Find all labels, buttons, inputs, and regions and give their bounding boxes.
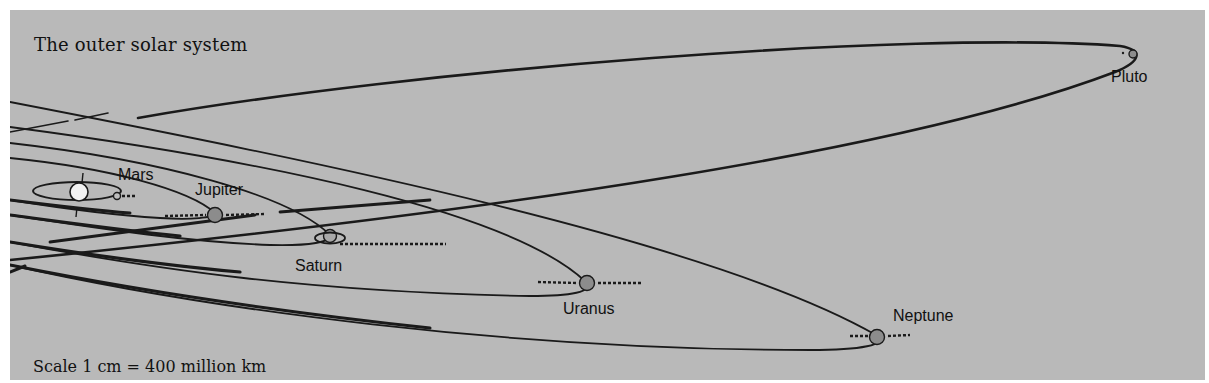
label-saturn: Saturn bbox=[295, 257, 342, 275]
uranus-icon bbox=[580, 276, 595, 291]
scale-label: Scale 1 cm = 400 million km bbox=[33, 357, 266, 376]
mars-icon bbox=[114, 193, 121, 200]
label-neptune: Neptune bbox=[893, 307, 954, 325]
saturn-icon bbox=[315, 230, 345, 244]
diagram-panel: The outer solar system Scale 1 cm = 400 … bbox=[10, 10, 1205, 380]
orbit-diagram bbox=[10, 10, 1205, 380]
label-pluto: Pluto bbox=[1111, 68, 1147, 86]
label-jupiter: Jupiter bbox=[195, 181, 243, 199]
jupiter-orbit-thick bbox=[10, 200, 130, 213]
jupiter-orbit bbox=[10, 158, 215, 219]
neptune-icon bbox=[870, 330, 885, 345]
diagram-title: The outer solar system bbox=[34, 34, 248, 55]
neptune-orbit bbox=[10, 102, 879, 350]
pluto-orbit bbox=[10, 42, 1136, 260]
pluto-icon bbox=[1122, 50, 1137, 58]
jupiter-icon bbox=[208, 208, 223, 223]
label-mars: Mars bbox=[118, 166, 154, 184]
label-uranus: Uranus bbox=[563, 300, 615, 318]
